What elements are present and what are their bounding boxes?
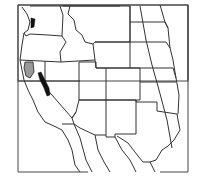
montana-border <box>70 6 130 44</box>
sd-ne-border <box>130 42 170 48</box>
mexico-coahuila-border <box>115 137 136 172</box>
oregon-border <box>20 33 66 62</box>
frame-right <box>160 5 188 172</box>
range-nw-california <box>24 62 34 78</box>
ok-tx-border <box>136 100 178 120</box>
mexico-chihuahua-border <box>95 135 110 172</box>
mexico-sonora-border <box>74 124 92 172</box>
map-frame <box>18 5 188 81</box>
wyoming-border <box>95 42 130 68</box>
arizona-border <box>72 100 106 135</box>
idaho-border <box>61 6 95 62</box>
nd-sd-border <box>130 22 168 28</box>
range-map <box>0 0 197 185</box>
range-washington <box>31 18 35 28</box>
range-sierra-nevada <box>38 72 50 96</box>
new-mexico-border <box>106 100 136 137</box>
colorado-border <box>106 68 140 100</box>
washington-border <box>22 6 63 36</box>
eastern-border <box>160 5 179 114</box>
mexico-tamaulipas-border <box>150 162 155 172</box>
nevada-border <box>45 61 79 118</box>
